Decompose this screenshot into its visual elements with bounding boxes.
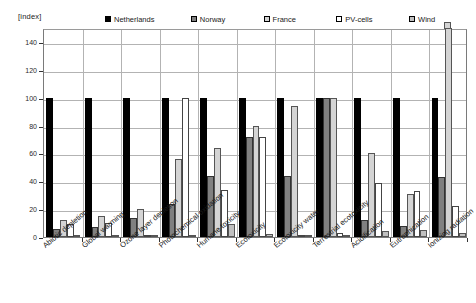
bar-france[interactable] bbox=[253, 126, 260, 237]
bar-netherlands[interactable] bbox=[432, 98, 439, 237]
bar-norway[interactable] bbox=[284, 176, 291, 237]
y-axis-tick-label: 140 bbox=[15, 39, 37, 46]
chart-legend: Netherlands Norway France PV-cells Wind bbox=[105, 12, 465, 26]
category-separator bbox=[160, 30, 161, 237]
y-axis-tick-label: 60 bbox=[15, 150, 37, 157]
x-axis-tick-mark bbox=[159, 238, 160, 242]
y-axis-tick-mark bbox=[39, 238, 43, 239]
category-separator bbox=[121, 30, 122, 237]
x-axis-tick-mark bbox=[82, 238, 83, 242]
legend-label: Netherlands bbox=[114, 15, 154, 24]
bar-wind[interactable] bbox=[112, 235, 119, 237]
bar-netherlands[interactable] bbox=[316, 98, 323, 237]
category-separator bbox=[237, 30, 238, 237]
x-axis-tick-mark bbox=[351, 238, 352, 242]
bar-norway[interactable] bbox=[400, 226, 407, 237]
legend-label: Wind bbox=[418, 15, 435, 24]
x-axis-tick-mark bbox=[197, 238, 198, 242]
bar-pv-cells[interactable] bbox=[298, 235, 305, 237]
legend-item-france: France bbox=[264, 15, 337, 24]
bar-pv-cells[interactable] bbox=[414, 191, 421, 237]
chart-plot-area bbox=[43, 29, 467, 238]
y-axis-unit-label: [index] bbox=[18, 12, 42, 21]
bar-pv-cells[interactable] bbox=[375, 183, 382, 237]
bar-group bbox=[316, 30, 350, 237]
bar-netherlands[interactable] bbox=[46, 98, 53, 237]
bar-netherlands[interactable] bbox=[277, 98, 284, 237]
bar-group bbox=[85, 30, 119, 237]
bar-group bbox=[123, 30, 157, 237]
bar-norway[interactable] bbox=[438, 177, 445, 237]
bar-france[interactable] bbox=[137, 209, 144, 237]
dark-gray-swatch-icon bbox=[191, 16, 197, 22]
bar-wind[interactable] bbox=[228, 224, 235, 237]
bar-pv-cells[interactable] bbox=[182, 98, 189, 237]
bar-pv-cells[interactable] bbox=[105, 223, 112, 237]
bar-netherlands[interactable] bbox=[162, 98, 169, 237]
category-separator bbox=[352, 30, 353, 237]
bar-france[interactable] bbox=[368, 153, 375, 237]
bar-france[interactable] bbox=[407, 194, 414, 237]
bar-norway[interactable] bbox=[207, 176, 214, 237]
category-separator bbox=[391, 30, 392, 237]
bar-norway[interactable] bbox=[92, 227, 99, 237]
bar-group bbox=[354, 30, 388, 237]
bar-wind[interactable] bbox=[305, 235, 312, 237]
bar-pv-cells[interactable] bbox=[67, 224, 74, 237]
category-separator bbox=[83, 30, 84, 237]
category-separator bbox=[275, 30, 276, 237]
bar-pv-cells[interactable] bbox=[452, 206, 459, 237]
mid-gray-swatch-icon bbox=[409, 16, 415, 22]
x-axis-tick-mark bbox=[390, 238, 391, 242]
bar-netherlands[interactable] bbox=[200, 98, 207, 237]
legend-label: Norway bbox=[200, 15, 225, 24]
bar-norway[interactable] bbox=[323, 98, 330, 237]
bar-group bbox=[277, 30, 311, 237]
bar-norway[interactable] bbox=[53, 229, 60, 237]
bar-netherlands[interactable] bbox=[393, 98, 400, 237]
bar-pv-cells[interactable] bbox=[259, 137, 266, 237]
legend-item-pv-cells: PV-cells bbox=[336, 15, 409, 24]
bar-wind[interactable] bbox=[266, 234, 273, 237]
bar-netherlands[interactable] bbox=[354, 98, 361, 237]
bar-norway[interactable] bbox=[169, 204, 176, 237]
bar-france[interactable] bbox=[291, 106, 298, 237]
bar-pv-cells[interactable] bbox=[221, 190, 228, 237]
x-axis-tick-mark bbox=[236, 238, 237, 242]
bar-group bbox=[200, 30, 234, 237]
bar-france[interactable] bbox=[214, 148, 221, 237]
bar-netherlands[interactable] bbox=[123, 98, 130, 237]
bar-wind[interactable] bbox=[343, 235, 350, 237]
bar-norway[interactable] bbox=[361, 220, 368, 237]
y-axis-tick-label: 80 bbox=[15, 123, 37, 130]
legend-item-wind: Wind bbox=[409, 15, 465, 24]
light-gray-swatch-icon bbox=[264, 16, 270, 22]
bar-france[interactable] bbox=[175, 159, 182, 237]
bar-wind[interactable] bbox=[459, 233, 466, 237]
y-axis-tick-label: 40 bbox=[15, 178, 37, 185]
bar-norway[interactable] bbox=[246, 137, 253, 237]
bar-france[interactable] bbox=[330, 98, 337, 237]
bar-netherlands[interactable] bbox=[85, 98, 92, 237]
bar-group bbox=[46, 30, 80, 237]
bar-group bbox=[432, 30, 466, 237]
x-axis-tick-mark bbox=[428, 238, 429, 242]
bar-france[interactable] bbox=[60, 220, 67, 237]
bar-france[interactable] bbox=[98, 216, 105, 237]
x-axis-tick-mark bbox=[274, 238, 275, 242]
bar-wind[interactable] bbox=[74, 235, 81, 237]
y-axis-tick-label: 0 bbox=[15, 234, 37, 241]
bar-norway[interactable] bbox=[130, 218, 137, 238]
legend-label: PV-cells bbox=[345, 15, 372, 24]
bar-group bbox=[393, 30, 427, 237]
bar-wind[interactable] bbox=[382, 231, 389, 237]
category-separator bbox=[429, 30, 430, 237]
bar-pv-cells[interactable] bbox=[144, 235, 151, 237]
bar-france[interactable] bbox=[445, 28, 452, 237]
bar-pv-cells[interactable] bbox=[337, 233, 344, 237]
legend-item-netherlands: Netherlands bbox=[105, 15, 191, 24]
bar-wind[interactable] bbox=[151, 235, 158, 237]
bar-wind[interactable] bbox=[189, 235, 196, 237]
bar-wind[interactable] bbox=[420, 230, 427, 237]
bar-netherlands[interactable] bbox=[239, 98, 246, 237]
